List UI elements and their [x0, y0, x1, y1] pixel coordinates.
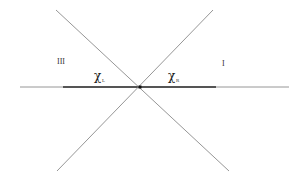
- chi-symbol: χ: [94, 69, 102, 83]
- chi-subscript: L: [102, 78, 105, 83]
- region-label-I: I: [222, 59, 225, 68]
- chi-symbol: χ: [168, 69, 176, 83]
- background: [0, 0, 303, 181]
- center-point: [139, 86, 142, 89]
- region-label-III: III: [57, 57, 65, 66]
- diagram-canvas: III I χ L χ R: [0, 0, 303, 181]
